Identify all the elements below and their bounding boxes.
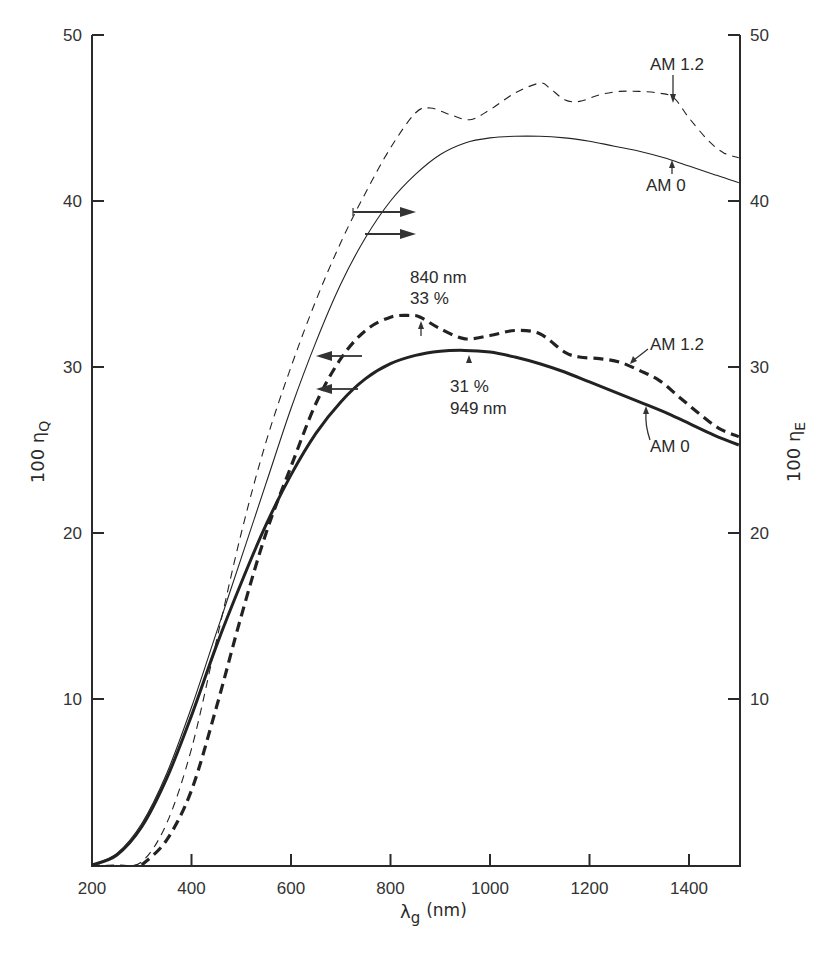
label-peak-949-efficiency: 31 % (450, 377, 489, 396)
x-tick-label: 1000 (471, 879, 509, 898)
label-am12-upper: AM 1.2 (650, 55, 704, 74)
axes (91, 35, 741, 866)
pointer-arrow-icon (643, 406, 650, 440)
axis-ticks (92, 35, 740, 866)
x-tick-label: 600 (277, 879, 305, 898)
pointer-arrow-icon (669, 160, 675, 174)
efficiency-chart: 2004006008001000120014001010202030304040… (0, 0, 831, 962)
label-am12-lower: AM 1.2 (650, 335, 704, 354)
curve-thick-dashed (142, 315, 739, 865)
x-tick-label: 1200 (571, 879, 609, 898)
curve-thin-solid (92, 136, 739, 865)
left-y-tick-label: 30 (63, 358, 82, 377)
x-tick-label: 1400 (670, 879, 708, 898)
svg-text:100 ηE: 100 ηE (783, 422, 808, 482)
x-tick-label: 400 (177, 879, 205, 898)
right-y-tick-label: 40 (750, 192, 769, 211)
left-y-tick-label: 50 (63, 26, 82, 45)
right-y-tick-label: 50 (750, 26, 769, 45)
x-tick-label: 800 (376, 879, 404, 898)
right-y-tick-label: 20 (750, 524, 769, 543)
annotations: AM 1.2 AM 0 840 nm 33 % 31 % 949 nm AM 1… (410, 55, 704, 456)
pointer-arrow-icon (466, 355, 472, 363)
label-peak-840-wavelength: 840 nm (410, 268, 467, 287)
label-am0-lower: AM 0 (650, 437, 690, 456)
axis-indicator-arrows (316, 207, 416, 394)
svg-text:λg(nm): λg(nm) (400, 900, 467, 927)
label-peak-840-efficiency: 33 % (410, 289, 449, 308)
curve-thick-solid (92, 350, 739, 865)
left-y-tick-label: 40 (63, 192, 82, 211)
data-curves (92, 83, 739, 866)
curve-thin-dashed (92, 83, 739, 866)
x-axis-title: λg(nm) (400, 900, 467, 927)
right-arrow-icon (365, 229, 416, 239)
left-y-tick-label: 20 (63, 524, 82, 543)
svg-text:100 ηQ: 100 ηQ (27, 421, 52, 484)
axis-titles: λg(nm) 100 ηQ 100 ηE (27, 421, 808, 927)
left-y-tick-label: 10 (63, 690, 82, 709)
right-y-axis-title: 100 ηE (783, 422, 808, 482)
left-y-axis-title: 100 ηQ (27, 421, 52, 484)
x-tick-label: 200 (78, 879, 106, 898)
right-y-tick-label: 30 (750, 358, 769, 377)
label-am0-upper: AM 0 (646, 176, 686, 195)
right-y-tick-label: 10 (750, 690, 769, 709)
pointer-arrow-icon (418, 321, 424, 336)
label-peak-949-wavelength: 949 nm (450, 399, 507, 418)
pointer-arrow-icon (630, 349, 648, 364)
